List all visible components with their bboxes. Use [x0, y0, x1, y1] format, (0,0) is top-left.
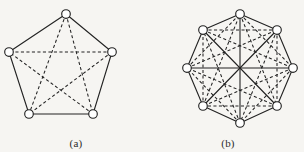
- graph-vertex-node: [236, 10, 245, 19]
- graph-edge-solid: [277, 68, 293, 106]
- graph-drawing-k8: [152, 0, 304, 152]
- graph-edge-dashed: [29, 14, 66, 114]
- graph-edge-solid: [66, 14, 112, 52]
- graph-vertex-node: [236, 119, 245, 128]
- graph-vertex-node: [25, 110, 34, 119]
- graph-edge-dashed: [66, 14, 93, 114]
- graph-vertex-node: [273, 26, 282, 35]
- graph-drawing-k5: [0, 0, 152, 152]
- graph-vertex-node: [89, 110, 98, 119]
- graph-edge-dashed: [9, 52, 93, 114]
- graph-edge-solid: [9, 14, 66, 52]
- graph-vertex-node: [199, 102, 208, 111]
- graph-vertex-node: [273, 102, 282, 111]
- graph-edge-solid: [240, 14, 277, 30]
- graph-vertex-node: [183, 64, 192, 73]
- figure-caption-b: (b): [152, 137, 304, 149]
- figure-panel-a: (a): [0, 0, 152, 152]
- graph-vertex-node: [108, 48, 117, 57]
- graph-vertex-node: [289, 64, 298, 73]
- graph-vertex-node: [62, 10, 71, 19]
- graph-edge-dashed: [29, 52, 112, 114]
- graph-vertex-node: [199, 26, 208, 35]
- graph-edge-solid: [203, 106, 240, 123]
- figure-panel-b: (b): [152, 0, 304, 152]
- figure-board: (a) (b): [0, 0, 304, 152]
- graph-edge-solid: [93, 52, 112, 114]
- graph-edge-solid: [9, 52, 29, 114]
- graph-edge-solid: [187, 30, 203, 68]
- figure-caption-a: (a): [0, 137, 152, 149]
- graph-vertex-node: [5, 48, 14, 57]
